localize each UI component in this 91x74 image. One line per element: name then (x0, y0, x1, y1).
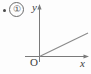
plotted-ray-line (40, 33, 89, 57)
y-axis-arrowhead-icon (37, 4, 41, 10)
math-figure: ① y x O (0, 0, 91, 74)
x-axis-label: x (80, 57, 85, 69)
origin-label: O (30, 56, 38, 68)
y-axis-label: y (32, 1, 37, 13)
coordinate-axes-graphic (0, 0, 91, 74)
